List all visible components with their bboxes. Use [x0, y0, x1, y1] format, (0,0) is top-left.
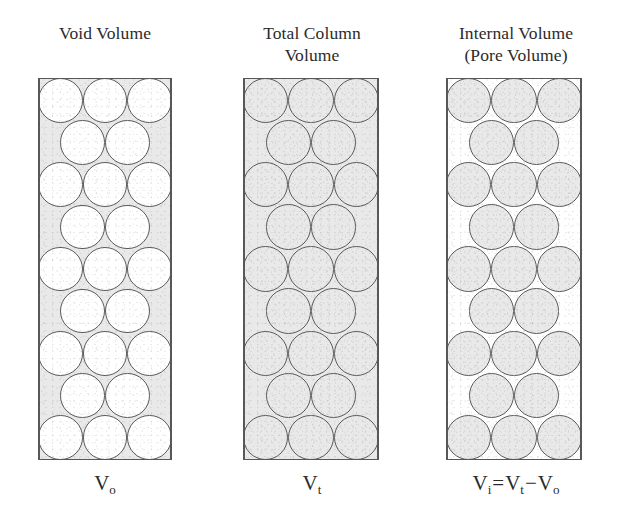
particle — [469, 120, 514, 165]
particle — [491, 78, 536, 123]
particle — [514, 288, 559, 333]
particle — [288, 415, 333, 460]
particle — [60, 120, 105, 165]
particle — [537, 246, 582, 291]
column-wall-left — [243, 78, 245, 460]
particle — [105, 289, 150, 334]
particle — [266, 373, 311, 418]
equation-term1-subscript: t — [520, 482, 524, 497]
particle — [514, 120, 559, 165]
symbol-subscript: t — [318, 482, 322, 497]
particle — [446, 415, 491, 460]
particle — [266, 204, 311, 249]
particle — [127, 331, 172, 376]
particle — [514, 204, 559, 249]
particle — [60, 373, 105, 418]
equation-term2-base: V — [538, 471, 553, 495]
panel-label-void-volume: Vo — [20, 470, 190, 499]
particle — [537, 415, 582, 460]
particle — [446, 331, 491, 376]
particle — [266, 120, 311, 165]
particle — [537, 331, 582, 376]
column-top-cap — [243, 78, 379, 79]
column-volume-diagram: Void Volume Vo Total Column Volume Vt — [0, 0, 617, 522]
particle — [83, 162, 128, 207]
particle — [311, 288, 356, 333]
equation-lhs-base: V — [473, 471, 488, 495]
particle — [537, 162, 582, 207]
particle — [38, 78, 83, 123]
particle — [60, 205, 105, 250]
particle — [83, 78, 128, 123]
particle — [105, 120, 150, 165]
particle — [288, 162, 333, 207]
panel-title-line: Internal Volume — [430, 22, 602, 44]
particle — [537, 78, 582, 123]
particle-bed — [243, 78, 379, 460]
column-top-cap — [38, 78, 172, 79]
particle — [469, 373, 514, 418]
column-top-cap — [446, 78, 582, 79]
particle — [266, 288, 311, 333]
column-total-column-volume — [243, 78, 379, 460]
particle — [83, 247, 128, 292]
particle — [491, 331, 536, 376]
particle — [334, 331, 379, 376]
column-bottom-cap — [243, 459, 379, 460]
particle — [469, 204, 514, 249]
panel-label-total-column-volume: Vt — [228, 470, 396, 499]
column-void-volume — [38, 78, 172, 460]
panel-label-internal-volume: Vi=Vt−Vo — [430, 470, 602, 499]
particle — [243, 331, 288, 376]
particle — [127, 415, 172, 460]
column-bottom-cap — [38, 459, 172, 460]
column-internal-volume — [446, 78, 582, 460]
particle — [243, 78, 288, 123]
particle — [243, 415, 288, 460]
particle — [334, 415, 379, 460]
equation-equals: = — [491, 471, 505, 495]
panel-void-volume: Void Volume Vo — [20, 0, 190, 522]
particle — [311, 204, 356, 249]
particle — [127, 247, 172, 292]
panel-title-line: Volume — [228, 44, 396, 66]
particle — [60, 289, 105, 334]
symbol-base: V — [303, 471, 318, 495]
particle — [127, 78, 172, 123]
particle — [514, 373, 559, 418]
equation-lhs-subscript: i — [488, 482, 492, 497]
particle-bed — [38, 78, 172, 460]
particle — [491, 415, 536, 460]
column-wall-right — [377, 78, 379, 460]
particle — [288, 78, 333, 123]
particle — [83, 331, 128, 376]
particle — [469, 288, 514, 333]
particle — [243, 162, 288, 207]
panel-internal-volume: Internal Volume (Pore Volume) Vi=Vt−Vo — [430, 0, 602, 522]
panel-title-line: (Pore Volume) — [430, 44, 602, 66]
particle — [105, 205, 150, 250]
particle — [334, 78, 379, 123]
equation-term2-subscript: o — [553, 482, 560, 497]
particle — [127, 162, 172, 207]
panel-title-line: Void Volume — [20, 22, 190, 44]
panel-title-line: Total Column — [228, 22, 396, 44]
column-wall-right — [580, 78, 582, 460]
column-wall-left — [446, 78, 448, 460]
panel-total-column-volume: Total Column Volume Vt — [228, 0, 396, 522]
equation-operator: − — [524, 471, 538, 495]
particle — [288, 246, 333, 291]
particle — [446, 246, 491, 291]
symbol-subscript: o — [109, 482, 116, 497]
particle — [491, 162, 536, 207]
particle — [38, 415, 83, 460]
panel-title-void-volume: Void Volume — [20, 22, 190, 44]
particle — [446, 162, 491, 207]
equation-term1-base: V — [505, 471, 520, 495]
particle — [334, 162, 379, 207]
particle — [83, 415, 128, 460]
particle — [334, 246, 379, 291]
particle — [446, 78, 491, 123]
particle — [38, 331, 83, 376]
particle — [311, 120, 356, 165]
